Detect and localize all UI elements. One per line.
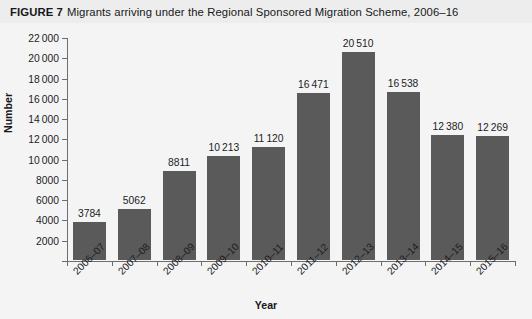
bar-value-label: 12 269	[477, 122, 508, 133]
x-tick	[201, 261, 202, 266]
bar-value-label: 11 120	[254, 133, 284, 144]
bar-value-label: 20 510	[343, 38, 374, 49]
x-tick	[246, 261, 247, 266]
y-tick	[62, 38, 67, 39]
bar: 16 471	[297, 93, 330, 260]
x-tick	[425, 261, 426, 266]
bar: 16 538	[387, 92, 420, 260]
bar-value-label: 16 538	[388, 78, 419, 89]
x-tick	[112, 261, 113, 266]
x-axis-title: Year	[0, 299, 532, 311]
bar-value-label: 16 471	[298, 79, 329, 90]
figure-container: FIGURE 7Migrants arriving under the Regi…	[0, 0, 532, 319]
figure-title: FIGURE 7Migrants arriving under the Regi…	[0, 6, 458, 18]
x-tick	[381, 261, 382, 266]
y-tick	[62, 160, 67, 161]
y-axis-line	[67, 38, 68, 262]
y-tick	[62, 58, 67, 59]
y-tick	[62, 99, 67, 100]
y-tick	[62, 79, 67, 80]
figure-title-bar: FIGURE 7Migrants arriving under the Regi…	[0, 0, 532, 23]
bar-value-label: 12 380	[432, 121, 463, 132]
x-tick	[67, 261, 68, 266]
y-tick-label: 10 000	[28, 154, 59, 165]
bar-value-label: 10 213	[208, 142, 239, 153]
figure-number: FIGURE 7	[10, 6, 63, 18]
y-tick-label: 2000	[36, 235, 59, 246]
y-tick	[62, 220, 67, 221]
y-tick-label: 4000	[36, 215, 59, 226]
y-tick	[62, 200, 67, 201]
y-tick-label: 16 000	[28, 93, 59, 104]
y-tick-label: 6000	[36, 195, 59, 206]
x-tick	[336, 261, 337, 266]
y-tick-label: 22 000	[28, 33, 59, 44]
y-tick-label: 12 000	[28, 134, 59, 145]
bar: 12 269	[476, 136, 509, 260]
plot-area: 200040006000800010 00012 00014 00016 000…	[67, 38, 515, 261]
bar: 20 510	[342, 52, 375, 260]
y-tick	[62, 139, 67, 140]
bar-value-label: 5062	[123, 195, 146, 206]
y-tick-label: 8000	[36, 174, 59, 185]
y-tick	[62, 180, 67, 181]
x-tick	[470, 261, 471, 266]
y-axis-title: Number	[2, 93, 14, 133]
bar-value-label: 3784	[78, 208, 101, 219]
x-tick	[515, 261, 516, 266]
x-tick	[157, 261, 158, 266]
bar: 12 380	[431, 135, 464, 260]
y-tick-label: 18 000	[28, 73, 59, 84]
y-tick	[62, 241, 67, 242]
y-tick	[62, 119, 67, 120]
bar-value-label: 8811	[168, 157, 190, 168]
y-tick-label: 20 000	[28, 53, 59, 64]
figure-caption: Migrants arriving under the Regional Spo…	[67, 6, 459, 18]
x-tick	[291, 261, 292, 266]
y-tick-label: 14 000	[28, 114, 59, 125]
